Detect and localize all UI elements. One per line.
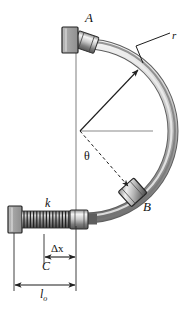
label-radius: r [172,30,176,41]
fixed-wall-support [8,206,22,233]
label-length-c: C [42,260,50,272]
physics-diagram [0,0,191,319]
coil-spring-coils [24,211,69,228]
radius-arrow [80,70,138,131]
collar-a-block [62,27,78,53]
label-lo-sub: o [43,294,47,303]
label-spring-constant: k [45,197,50,209]
label-delta-x: Δx [51,243,64,254]
label-angle-theta: θ [84,150,90,162]
spring-end-sleeve [70,210,88,229]
label-collar-a: A [85,11,93,24]
label-collar-b: B [143,200,151,213]
radius-label-leader [136,33,170,46]
collar-a [62,27,99,54]
label-natural-length: lo [40,288,47,303]
